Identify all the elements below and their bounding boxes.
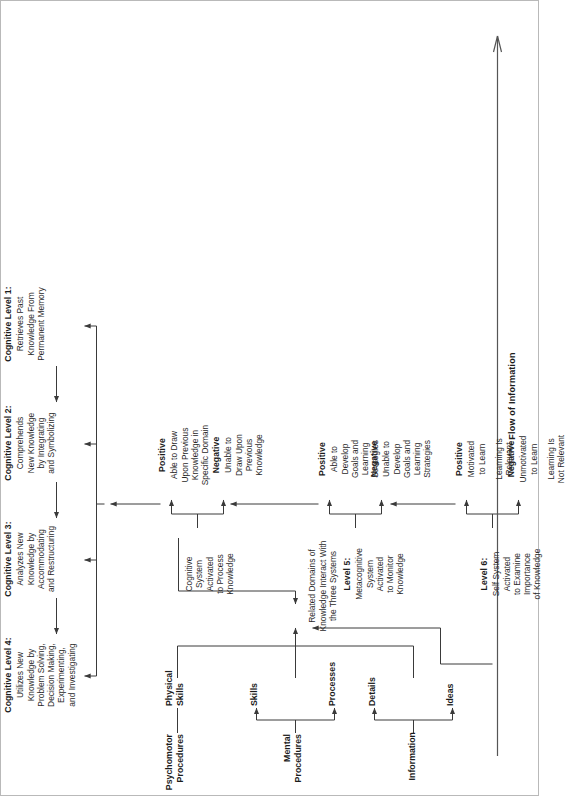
hub-line-2: Knowledge Interact With (317, 534, 328, 638)
level-5-neg-line-2: Develop (391, 420, 401, 498)
skills2-text: Skills (174, 642, 185, 706)
cl1-line-1: Retrieves Past (14, 276, 24, 372)
level-6-line-2: Activated (501, 528, 511, 620)
level-5-neg-line-1: Unable to (380, 420, 390, 498)
information-text: Information (406, 732, 416, 780)
cl4-line-1: Utilizes New (14, 628, 24, 722)
cl4-line-6: and Investigating (66, 628, 76, 722)
cl3-line-4: and Restructuring (45, 512, 55, 606)
skills-text: Skills (248, 683, 258, 706)
level-5-line-1: Metacognitive (353, 528, 363, 620)
level-5-pos-line-4: Learning (359, 420, 369, 498)
cog-pos-line-1: Able to Draw (168, 408, 178, 502)
cognitive-system-negative-branch: Negative Unable to Draw Upon Previous Kn… (210, 412, 263, 498)
level-5-title: Level 5: (341, 528, 351, 620)
mental-text: Mental (281, 734, 292, 796)
cl3-line-3: Accommodating (35, 512, 45, 606)
ideas-text: Ideas (444, 684, 454, 707)
level-5-pos-line-3: Goals and (349, 420, 359, 498)
level-5-line-2: System (364, 528, 374, 620)
level-6-neg-line-2: to Learn (528, 420, 538, 498)
level-6-line-5: of Knowledge (531, 528, 541, 620)
cl1-line-3: Permanent Memory (35, 276, 45, 372)
cl2-line-1: Comprehends (14, 396, 24, 490)
level-5-line-4: to Monitor (384, 528, 394, 620)
level-6-node: Level 6: Self System Activated to Examin… (478, 528, 542, 620)
cl3-line-2: Knowledge by (25, 512, 35, 606)
cog-pos-line-3: Knowledge in (189, 408, 199, 502)
domain-details-label: Details (366, 650, 377, 706)
cognitive-level-1-node: Cognitive Level 1: Retrieves Past Knowle… (2, 276, 45, 372)
level-5-line-5: Knowledge (394, 528, 404, 620)
cog-neg-line-4: Knowledge (253, 412, 263, 498)
cl2-line-4: and Symbolizing (45, 396, 55, 490)
level-6-pos-gap (486, 420, 493, 498)
cl2-line-2: New Knowledge (25, 396, 35, 490)
cognitive-level-4-node: Cognitive Level 4: Utilizes New Knowledg… (2, 628, 76, 722)
cognitive-system-line-4: to Process (214, 528, 224, 620)
cl4-line-4: Decision Making, (45, 628, 55, 722)
cognitive-system-positive-branch: Positive Able to Draw Upon Previous Know… (156, 408, 209, 502)
level-5-pos-line-5: Strategies (369, 420, 379, 498)
level-5-neg-line-5: Strategies (421, 420, 431, 498)
level-6-neg-line-4: Learning Is (545, 420, 555, 498)
level-5-positive-label: Positive (316, 420, 326, 498)
level-5-neg-line-4: Learning (411, 420, 421, 498)
level-6-neg-line-5: Not Relevant (555, 420, 565, 498)
cl3-line-1: Analyzes New (14, 512, 24, 606)
cl4-line-2: Knowledge by (25, 628, 35, 722)
cl1-line-2: Knowledge From (25, 276, 35, 372)
level-6-neg-line-1: Unmotivated (517, 420, 527, 498)
psychomotor-text: Psychomotor (163, 734, 174, 796)
domain-skills-label: Skills (248, 650, 259, 706)
level-6-neg-gap (538, 420, 545, 498)
cognitive-level-2-title: Cognitive Level 2: (2, 396, 12, 490)
domain-psychomotor-procedures-label: Psychomotor Procedures (163, 734, 185, 796)
flow-of-information-text: Flow of Information (506, 352, 516, 439)
cl2-line-3: by Integrating (35, 396, 45, 490)
level-6-line-4: Importance (521, 528, 531, 620)
hub-related-domains: Related Domains of Knowledge Interact Wi… (306, 534, 338, 638)
cognitive-level-4-title: Cognitive Level 4: (2, 628, 12, 722)
cognitive-level-2-node: Cognitive Level 2: Comprehends New Knowl… (2, 396, 55, 490)
level-6-line-1: Self System (490, 528, 500, 620)
level-5-neg-line-3: Goals and (401, 420, 411, 498)
level-6-pos-line-1: Motivated (465, 420, 475, 498)
level-5-node: Level 5: Metacognitive System Activated … (341, 528, 405, 620)
level-5-positive-branch: Positive Able to Develop Goals and Learn… (316, 420, 380, 498)
physical-text: Physical (163, 642, 174, 706)
cog-pos-line-2: Upon Previous (179, 408, 189, 502)
hub-line-1: Related Domains of (306, 534, 317, 638)
cognitive-system-node: Cognitive System Activated to Process Kn… (183, 528, 234, 620)
cognitive-system-line-5: Knowledge (224, 528, 234, 620)
level-6-positive-label: Positive (453, 420, 463, 498)
hub-line-3: the Three Systems (327, 534, 338, 638)
level-6-pos-line-2: to Learn (476, 420, 486, 498)
cog-neg-line-3: Previous (243, 412, 253, 498)
domain-processes-label: Processes (326, 636, 337, 706)
cognitive-system-negative-label: Negative (210, 412, 220, 498)
level-6-pos-line-4: Learning Is (493, 420, 503, 498)
cognitive-level-3-node: Cognitive Level 3: Analyzes New Knowledg… (2, 512, 55, 606)
domain-ideas-label: Ideas (444, 650, 455, 706)
cognitive-system-line-3: Activated (204, 528, 214, 620)
details-text: Details (366, 677, 376, 706)
level-6-title: Level 6: (478, 528, 488, 620)
psychomotor-procedures-text: Procedures (174, 734, 185, 796)
cl4-line-3: Problem Solving, (35, 628, 45, 722)
cognitive-system-line-1: Cognitive (183, 528, 193, 620)
processes-text: Processes (326, 662, 336, 706)
level-5-line-3: Activated (374, 528, 384, 620)
domain-mental-procedures-label: Mental Procedures (281, 734, 303, 796)
cognitive-system-positive-label: Positive (156, 408, 166, 502)
cog-pos-line-4: Specific Domain (199, 408, 209, 502)
cognitive-level-1-title: Cognitive Level 1: (2, 276, 12, 372)
cog-neg-line-1: Unable to (222, 412, 232, 498)
flow-of-information-label: Flow of Information (506, 326, 516, 466)
level-6-positive-branch: Positive Motivated to Learn Learning Is … (453, 420, 513, 498)
level-5-pos-line-1: Able to (328, 420, 338, 498)
procedures-text: Procedures (292, 734, 303, 796)
